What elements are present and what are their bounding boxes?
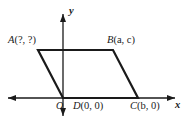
vertex-coords-b: (a, c) — [113, 34, 135, 45]
vertex-coords-d: (0, 0) — [81, 100, 104, 111]
vertex-coords-a: (?, ?) — [14, 34, 36, 45]
y-axis-label: y — [69, 6, 74, 17]
vertex-label-a: A(?, ?) — [8, 35, 36, 46]
vertex-label-b: B(a, c) — [107, 35, 135, 46]
parallelogram-shape — [38, 50, 138, 98]
x-axis-label: x — [175, 100, 180, 111]
vertex-coords-c: (b, 0) — [137, 100, 160, 111]
vertex-label-c: C(b, 0) — [130, 101, 160, 112]
geometry-figure: A(?, ?) B(a, c) C(b, 0) D(0, 0) O x y — [0, 0, 189, 124]
y-axis-arrow-up-icon — [60, 14, 66, 22]
x-axis-arrow-right-icon — [167, 95, 175, 101]
x-axis-arrow-left-icon — [8, 95, 16, 101]
vertex-name-c: C — [130, 100, 137, 111]
vertex-name-d: D — [73, 100, 81, 111]
vertex-label-d: D(0, 0) — [73, 101, 103, 112]
origin-label: O — [56, 101, 63, 111]
